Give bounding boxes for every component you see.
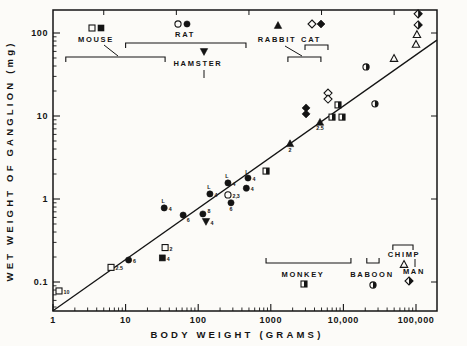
circle-filled-shape: [161, 205, 167, 211]
point-monkey-0: [263, 168, 269, 174]
legend-symbol-mouse: [89, 25, 95, 31]
point-cat-1: [302, 110, 310, 118]
point-baboon-1: [372, 101, 378, 107]
legend-range-bracket-mouse: [66, 57, 165, 62]
point-rat-1: [161, 205, 167, 211]
legend-pointer-mouse: [104, 45, 118, 56]
diamond-half-shape: [418, 10, 422, 18]
point-flag-label: L: [162, 198, 166, 204]
y-tick-label: 0.1: [34, 277, 48, 287]
y-tick-label: 10: [37, 111, 48, 121]
circle-open-shape: [225, 192, 231, 198]
point-man-0: [414, 10, 422, 18]
point-mouse-1: [108, 264, 114, 270]
point-monkey-2: [335, 102, 341, 108]
legend-symbol-baboon: [370, 282, 376, 288]
x-tick-label: 1000: [260, 315, 282, 325]
circle-filled-shape: [207, 191, 213, 197]
point-label: 4: [167, 256, 170, 262]
point-rat-6: [225, 192, 231, 198]
square-half-shape: [342, 114, 345, 120]
x-tick-label: 100,000: [398, 315, 435, 325]
legend-label-cat: CAT: [301, 35, 321, 44]
legend-symbol-cat: [308, 20, 316, 28]
point-rat-3: [200, 211, 206, 217]
diamond-half-shape: [409, 277, 413, 285]
point-rat-8: [245, 175, 251, 181]
triangle-up-filled-shape: [274, 22, 281, 29]
point-mouse-0: [56, 288, 62, 294]
legend-label-hamster: HAMSTER: [174, 59, 223, 68]
circle-filled-shape: [184, 21, 190, 27]
circle-filled-shape: [225, 180, 231, 186]
legend-label-baboon: BABOON: [350, 270, 394, 279]
point-rat-5: [225, 180, 231, 186]
y-tick-label: 100: [31, 28, 48, 38]
legend-symbol-rabbit: [274, 22, 281, 29]
triangle-up-open-shape: [390, 55, 397, 62]
legend-label-chimp: CHIMP: [388, 250, 421, 259]
figure: 110100100010,000100,0001001010.1102.5426…: [0, 0, 467, 346]
diamond-open-shape: [308, 20, 316, 28]
point-label: 2: [170, 246, 173, 252]
x-tick-label: 10,000: [328, 315, 359, 325]
point-rat-2: [180, 212, 186, 218]
square-open-shape: [108, 264, 114, 270]
point-cat-3: [324, 95, 332, 103]
point-flag-label: L: [225, 173, 229, 179]
triangle-up-filled-shape: [286, 140, 293, 147]
point-monkey-1: [329, 114, 335, 120]
point-label: 4: [210, 220, 213, 226]
legend-label-rabbit: RABBIT: [258, 35, 297, 44]
legend-label-rat: RAT: [175, 30, 195, 39]
triangle-down-filled-shape: [200, 49, 207, 56]
point-label: 10: [64, 289, 70, 295]
legend-label-monkey: MONKEY: [281, 270, 324, 279]
square-half-shape: [266, 168, 269, 174]
point-label: 4: [251, 186, 254, 192]
y-tick-label: 1: [42, 194, 48, 204]
point-rat-4: [207, 191, 213, 197]
triangle-up-filled-shape: [316, 118, 323, 125]
circle-filled-shape: [228, 200, 234, 206]
circle-filled-shape: [126, 257, 132, 263]
x-tick-label: 10: [120, 315, 131, 325]
point-label: 6: [187, 217, 190, 223]
x-tick-label: 100: [190, 315, 207, 325]
point-label: 4: [214, 192, 217, 198]
point-chimp-1: [413, 31, 420, 38]
point-label: 2.5: [316, 125, 323, 131]
legend-range-bracket-cat: [305, 45, 328, 50]
legend-label-mouse: MOUSE: [78, 35, 114, 44]
point-label: 2: [289, 147, 292, 153]
point-label: 4: [232, 181, 235, 187]
point-monkey-3: [339, 114, 345, 120]
point-label: 2,3: [232, 193, 239, 199]
point-rabbit-0: [286, 140, 293, 147]
triangle-up-open-shape: [412, 40, 419, 47]
point-label: 6: [230, 206, 233, 212]
point-label: 4: [252, 176, 255, 182]
point-rabbit-1: [316, 118, 323, 125]
legend-range-bracket-rabbit: [288, 57, 321, 62]
point-label: 2.5: [116, 265, 123, 271]
point-rat-0: [126, 257, 132, 263]
diamond-half-shape: [418, 21, 422, 29]
circle-filled-shape: [245, 175, 251, 181]
legend-symbol-rat: [184, 21, 190, 27]
legend-pointer-rabbit: [285, 46, 302, 56]
square-filled-shape: [159, 255, 165, 261]
point-chimp-2: [412, 40, 419, 47]
triangle-down-filled-shape: [202, 218, 209, 225]
circle-open-shape: [175, 21, 181, 27]
point-mouse-2: [159, 255, 165, 261]
square-half-shape: [338, 102, 341, 108]
point-rat-7: [228, 200, 234, 206]
point-rat-9: [243, 185, 249, 191]
scatter-plot: 110100100010,000100,0001001010.1102.5426…: [0, 0, 467, 346]
legend-symbol-man: [405, 277, 413, 285]
generated-chart-content: 110100100010,000100,0001001010.1102.5426…: [31, 10, 437, 325]
square-open-shape: [56, 288, 62, 294]
square-filled-shape: [98, 25, 104, 31]
square-half-shape: [304, 281, 307, 287]
